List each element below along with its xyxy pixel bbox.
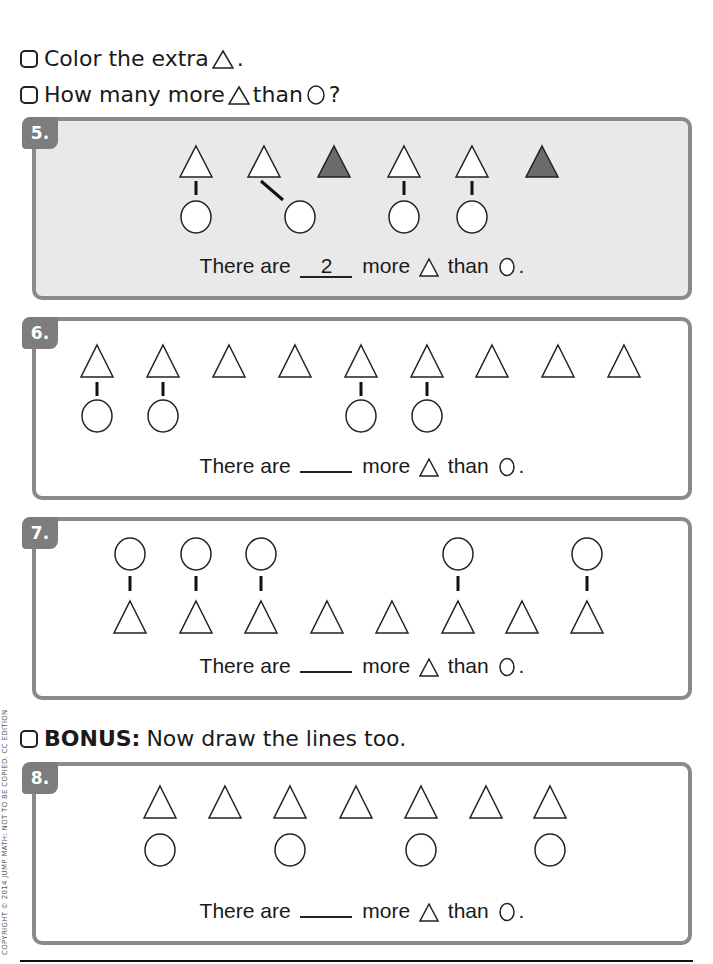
bonus-label: BONUS:: [44, 726, 140, 751]
instruction-color-extra: Color the extra .: [20, 46, 244, 71]
problem-8-panel: 8. There are more than .: [32, 762, 692, 945]
circle-icon: [498, 457, 516, 477]
sentence-text: There are: [200, 654, 291, 677]
punctuation: .: [519, 654, 525, 677]
circle-icon: [457, 201, 487, 233]
punctuation: .: [519, 254, 525, 277]
circle-icon: [181, 201, 211, 233]
sentence-text: There are: [200, 254, 291, 277]
sentence-text: more: [362, 254, 410, 277]
sentence-text: more: [362, 899, 410, 922]
sentence-text: than: [448, 899, 489, 922]
sentence-text: more: [362, 654, 410, 677]
triangle-icon: [228, 85, 250, 105]
problem-7-panel: 7. There are more than: [32, 517, 692, 700]
triangle-icon: [419, 902, 439, 922]
triangle-filled-icon: [526, 146, 558, 177]
instruction-text: Color the extra: [44, 46, 209, 71]
sentence-text: more: [362, 454, 410, 477]
sentence-text: There are: [200, 899, 291, 922]
instruction-text: than: [253, 82, 303, 107]
punctuation: .: [519, 454, 525, 477]
checkbox[interactable]: [20, 730, 38, 748]
circle-icon: [306, 85, 326, 105]
problem-5-panel: 5. There are 2 more than .: [32, 117, 692, 300]
bonus-text: Now draw the lines too.: [146, 726, 406, 751]
answer-sentence: There are more than .: [36, 454, 688, 478]
answer-sentence: There are more than .: [36, 654, 688, 678]
triangle-icon: [419, 457, 439, 477]
triangle-icon: [388, 146, 420, 177]
instruction-how-many: How many more than ?: [20, 82, 341, 107]
triangle-icon: [419, 257, 439, 277]
triangle-icon: [456, 146, 488, 177]
circle-icon: [389, 201, 419, 233]
copyright-notice: COPYRIGHT © 2014 JUMP MATH: NOT TO BE CO…: [1, 709, 9, 955]
triangle-icon: [419, 657, 439, 677]
sentence-text: than: [448, 254, 489, 277]
circle-icon: [285, 201, 315, 233]
answer-blank[interactable]: 2: [300, 256, 352, 278]
footer-divider: [20, 960, 693, 962]
circle-icon: [498, 902, 516, 922]
sentence-text: than: [448, 454, 489, 477]
problem-6-panel: 6. There are more than .: [32, 317, 692, 500]
answer-blank[interactable]: [300, 671, 352, 673]
answer-sentence: There are more than .: [36, 899, 688, 923]
checkbox[interactable]: [20, 50, 38, 68]
triangle-filled-icon: [318, 146, 350, 177]
instruction-text: How many more: [44, 82, 225, 107]
answer-blank[interactable]: [300, 916, 352, 918]
circle-icon: [498, 257, 516, 277]
punctuation: .: [519, 899, 525, 922]
sentence-text: There are: [200, 454, 291, 477]
punctuation: ?: [329, 82, 341, 107]
answer-sentence: There are 2 more than .: [36, 254, 688, 278]
bonus-instruction: BONUS: Now draw the lines too.: [20, 726, 406, 751]
triangle-icon: [212, 49, 234, 69]
sentence-text: than: [448, 654, 489, 677]
triangle-icon: [180, 146, 212, 177]
punctuation: .: [237, 46, 244, 71]
answer-blank[interactable]: [300, 471, 352, 473]
circle-icon: [498, 657, 516, 677]
checkbox[interactable]: [20, 86, 38, 104]
triangle-icon: [248, 146, 280, 177]
